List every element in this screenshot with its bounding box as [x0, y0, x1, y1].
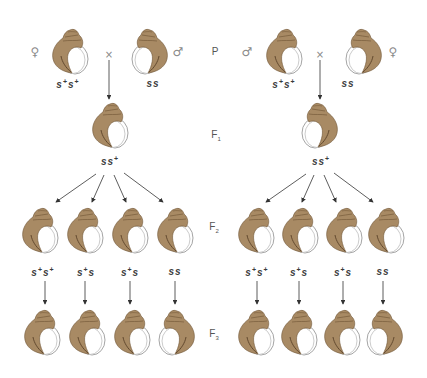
genotype-label: ss+: [312, 155, 330, 167]
genotype-label: ss: [341, 78, 354, 89]
shell-dextral: [364, 205, 408, 255]
male-symbol: ♂: [242, 45, 253, 59]
generation-label-f3: F3: [209, 328, 218, 341]
genotype-label: ss: [146, 78, 159, 89]
genotype-label: ss+: [101, 155, 119, 167]
shell-dextral: [63, 205, 107, 255]
shell-sinistral: [128, 26, 172, 76]
shell-sinistral: [298, 100, 342, 150]
shell-dextral: [322, 205, 366, 255]
genotype-label: s+s: [121, 266, 139, 278]
shell-dextral: [65, 307, 109, 357]
genotype-label: s+s+: [56, 78, 79, 90]
generation-label-p: P: [212, 46, 219, 59]
genotype-label: s+s: [77, 266, 95, 278]
genotype-label: s+s+: [245, 266, 268, 278]
shell-dextral: [277, 307, 321, 357]
genotype-label: s+s+: [31, 266, 54, 278]
cross-symbol: ×: [105, 49, 113, 60]
shell-dextral: [18, 205, 62, 255]
genotype-label: s+s: [334, 266, 352, 278]
generation-label-f1: F1: [211, 129, 220, 142]
shell-dextral: [278, 205, 322, 255]
shell-dextral: [20, 307, 64, 357]
shell-dextral: [110, 307, 154, 357]
shell-sinistral: [363, 307, 407, 357]
female-symbol: ♀: [31, 45, 40, 59]
shell-dextral: [153, 205, 197, 255]
generation-label-f2: F2: [209, 221, 218, 234]
male-symbol: ♂: [173, 45, 184, 59]
shell-dextral: [234, 307, 278, 357]
female-symbol: ♀: [389, 45, 398, 59]
genotype-label: s+s: [290, 266, 308, 278]
cross-symbol: ×: [316, 49, 324, 60]
genotype-label: ss: [168, 266, 181, 277]
shell-dextral: [320, 307, 364, 357]
shell-dextral: [234, 205, 278, 255]
shell-dextral: [88, 100, 132, 150]
genotype-label: ss: [376, 266, 389, 277]
genotype-label: s+s+: [272, 78, 295, 90]
shell-dextral: [262, 26, 306, 76]
shell-dextral: [108, 205, 152, 255]
shell-sinistral: [342, 26, 386, 76]
shell-sinistral: [155, 307, 199, 357]
shell-dextral: [48, 26, 92, 76]
